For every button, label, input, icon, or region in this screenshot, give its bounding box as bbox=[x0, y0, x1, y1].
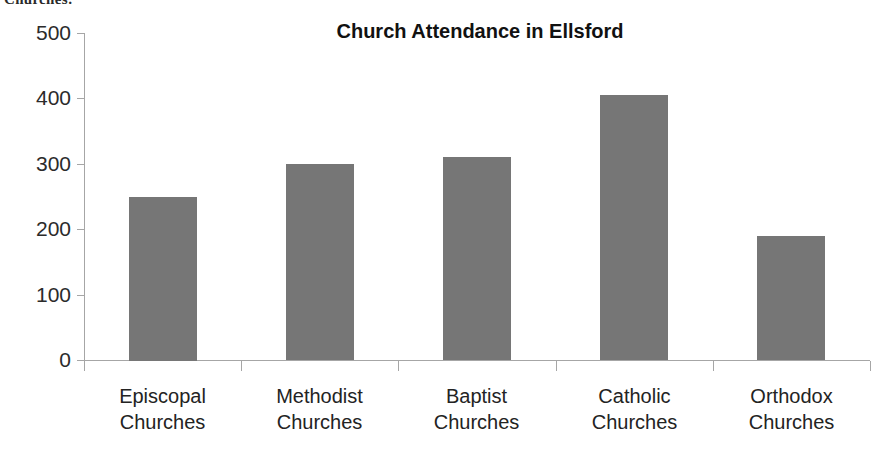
y-axis-tick-label: 300 bbox=[9, 153, 71, 174]
y-axis-tick-label: 100 bbox=[9, 284, 71, 305]
y-axis-tick-label: 400 bbox=[9, 87, 71, 108]
y-axis-tick-mark bbox=[77, 229, 84, 230]
x-axis-category-label-line: Churches bbox=[713, 409, 870, 435]
x-axis-separator-tick bbox=[870, 361, 871, 371]
y-axis-tick-label: 200 bbox=[9, 218, 71, 239]
x-axis-separator-tick bbox=[713, 361, 714, 371]
chart-title: Church Attendance in Ellsford bbox=[220, 20, 740, 43]
x-axis-category-label-line: Churches bbox=[241, 409, 398, 435]
bar bbox=[129, 197, 197, 361]
x-axis-separator-tick bbox=[398, 361, 399, 371]
x-axis-separator-tick bbox=[84, 361, 85, 371]
x-axis-category-label-line: Churches bbox=[84, 409, 241, 435]
bar bbox=[600, 95, 668, 360]
bar-chart-figure: Churches: Church Attendance in Ellsford … bbox=[0, 0, 880, 457]
x-axis-category-label-line: Churches bbox=[398, 409, 555, 435]
y-axis-line bbox=[84, 33, 85, 361]
bar bbox=[757, 236, 825, 360]
x-axis-category-label-line: Churches bbox=[556, 409, 713, 435]
x-axis-line bbox=[84, 360, 870, 361]
x-axis-category-label-line: Baptist bbox=[398, 383, 555, 409]
x-axis-category-label: EpiscopalChurches bbox=[84, 383, 241, 435]
x-axis-category-label-line: Catholic bbox=[556, 383, 713, 409]
y-axis-tick-mark bbox=[77, 33, 84, 34]
x-axis-category-label-line: Orthodox bbox=[713, 383, 870, 409]
y-axis-tick-labels: 5004003002001000 bbox=[0, 0, 71, 457]
x-axis-category-label: OrthodoxChurches bbox=[713, 383, 870, 435]
x-axis-category-label: CatholicChurches bbox=[556, 383, 713, 435]
y-axis-tick-mark bbox=[77, 164, 84, 165]
x-axis-separator-tick bbox=[556, 361, 557, 371]
y-axis-tick-label: 500 bbox=[9, 22, 71, 43]
bar bbox=[286, 164, 354, 360]
x-axis-category-label-line: Methodist bbox=[241, 383, 398, 409]
x-axis-category-label: BaptistChurches bbox=[398, 383, 555, 435]
bar bbox=[443, 157, 511, 360]
x-axis-separator-tick bbox=[241, 361, 242, 371]
y-axis-tick-mark bbox=[77, 98, 84, 99]
x-axis-category-label-line: Episcopal bbox=[84, 383, 241, 409]
x-axis-category-label: MethodistChurches bbox=[241, 383, 398, 435]
y-axis-tick-mark bbox=[77, 295, 84, 296]
y-axis-tick-label: 0 bbox=[9, 349, 71, 370]
y-axis-tick-mark bbox=[77, 360, 84, 361]
